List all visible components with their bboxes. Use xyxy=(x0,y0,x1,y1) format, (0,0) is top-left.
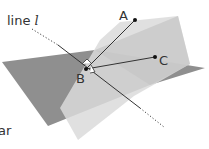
point-a xyxy=(133,18,137,22)
point-a-label: A xyxy=(119,9,128,22)
line-l-label: line l xyxy=(7,14,39,27)
point-c-label: C xyxy=(159,54,168,67)
line-name-text: l xyxy=(35,13,39,28)
line-l-dotted-lower xyxy=(140,108,164,127)
point-b-label: B xyxy=(76,72,85,85)
line-label-text: line xyxy=(7,13,30,28)
line-l-dotted-upper xyxy=(32,29,58,45)
cut-caption-text: ar xyxy=(0,124,11,137)
point-c xyxy=(153,55,157,59)
